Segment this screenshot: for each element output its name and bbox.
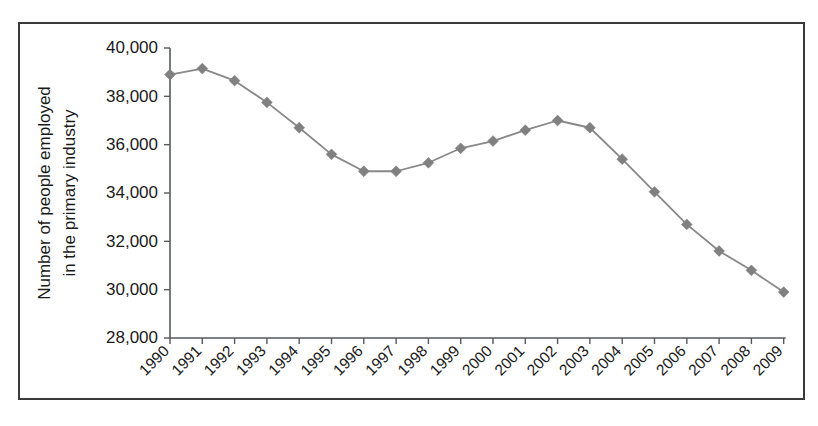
- x-tick-label: 1996: [330, 342, 366, 378]
- y-tick-label: 36,000: [106, 135, 158, 154]
- y-axis-tick-labels: 40,00038,00036,00034,00032,00030,00028,0…: [106, 38, 158, 347]
- chart-figure: Number of people employedin the primary …: [0, 0, 818, 426]
- axis-lines: [170, 48, 786, 338]
- x-tick-label: 2003: [556, 342, 592, 378]
- data-point-marker: [358, 166, 369, 177]
- chart-axes: [164, 48, 786, 344]
- x-tick-label: 2004: [588, 342, 625, 379]
- x-tick-label: 1998: [394, 342, 430, 378]
- data-point-marker: [197, 63, 208, 74]
- x-axis-tick-labels: 1990199119921993199419951996199719981999…: [136, 342, 786, 379]
- y-tick-label: 38,000: [106, 87, 158, 106]
- x-tick-label: 1991: [168, 342, 204, 378]
- data-point-marker: [746, 265, 757, 276]
- y-axis-title-line: in the primary industry: [60, 109, 79, 277]
- x-tick-label: 2006: [653, 342, 689, 378]
- data-point-marker: [778, 287, 789, 298]
- y-tick-label: 32,000: [106, 232, 158, 251]
- x-tick-label: 2000: [459, 342, 496, 379]
- x-tick-label: 1992: [200, 342, 236, 378]
- data-point-marker: [552, 115, 563, 126]
- x-tick-label: 2002: [523, 342, 559, 378]
- data-point-marker: [520, 125, 531, 136]
- x-tick-label: 2008: [717, 342, 753, 378]
- x-tick-label: 1993: [233, 342, 269, 378]
- data-point-marker: [455, 143, 466, 154]
- x-tick-label: 2001: [491, 342, 527, 378]
- y-tick-label: 34,000: [106, 183, 158, 202]
- data-point-marker: [488, 136, 499, 147]
- data-point-markers: [165, 63, 790, 297]
- y-axis-title: Number of people employedin the primary …: [35, 86, 79, 300]
- line-chart-canvas: Number of people employedin the primary …: [0, 0, 818, 426]
- y-tick-label: 40,000: [106, 38, 158, 57]
- data-point-marker: [423, 157, 434, 168]
- data-point-marker: [229, 75, 240, 86]
- x-tick-label: 1995: [297, 342, 333, 378]
- y-tick-label: 30,000: [106, 280, 158, 299]
- x-tick-label: 1999: [426, 342, 462, 378]
- data-point-marker: [165, 69, 176, 80]
- x-tick-label: 1994: [265, 342, 302, 379]
- x-tick-label: 2009: [749, 342, 785, 378]
- y-axis-title-line: Number of people employed: [35, 86, 54, 300]
- y-tick-label: 28,000: [106, 328, 158, 347]
- x-tick-label: 2005: [620, 342, 656, 378]
- data-point-marker: [391, 166, 402, 177]
- x-tick-label: 2007: [685, 342, 721, 378]
- x-tick-label: 1997: [362, 342, 398, 378]
